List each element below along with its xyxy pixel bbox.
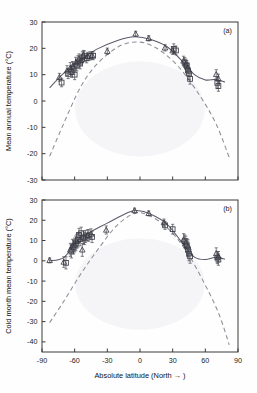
- y-tick-label: -20: [27, 297, 37, 306]
- panel-b: -90-60-3003060903020100-10-20-30-40Cold …: [4, 196, 242, 365]
- y-tick-label: 20: [30, 44, 38, 53]
- y-axis-title: Mean annual temperature (°C): [4, 51, 13, 151]
- y-tick-label: 0: [34, 97, 38, 106]
- figure-container: 3020100-10-20-30Mean annual temperature …: [0, 0, 257, 393]
- x-tick-label: -30: [102, 356, 112, 365]
- x-tick-label: -60: [69, 356, 79, 365]
- y-tick-label: -40: [27, 337, 37, 346]
- y-tick-label: 10: [30, 236, 38, 245]
- panel-label: (b): [223, 204, 232, 213]
- y-tick-label: -30: [27, 317, 37, 326]
- y-tick-label: 20: [30, 216, 38, 225]
- y-tick-label: 30: [30, 18, 38, 27]
- y-tick-label: -10: [27, 123, 37, 132]
- panel-a: 3020100-10-20-30Mean annual temperature …: [4, 18, 238, 185]
- background-smudge: [75, 62, 204, 157]
- x-tick-label: -90: [37, 356, 47, 365]
- y-tick-label: 10: [30, 70, 38, 79]
- x-axis-title: Absolute latitude (North → ): [94, 371, 185, 380]
- panel-label: (a): [223, 26, 232, 35]
- x-tick-label: 0: [138, 356, 142, 365]
- x-tick-label: 30: [169, 356, 177, 365]
- y-tick-label: 30: [30, 196, 38, 205]
- y-tick-label: 0: [34, 256, 38, 265]
- y-axis-title: Cold month mean temperature (°C): [4, 218, 13, 334]
- x-tick-label: 60: [201, 356, 209, 365]
- y-tick-label: -10: [27, 277, 37, 286]
- x-tick-label: 90: [234, 356, 242, 365]
- y-tick-label: -20: [27, 149, 37, 158]
- chart-svg: 3020100-10-20-30Mean annual temperature …: [0, 0, 257, 393]
- y-tick-label: -30: [27, 176, 37, 185]
